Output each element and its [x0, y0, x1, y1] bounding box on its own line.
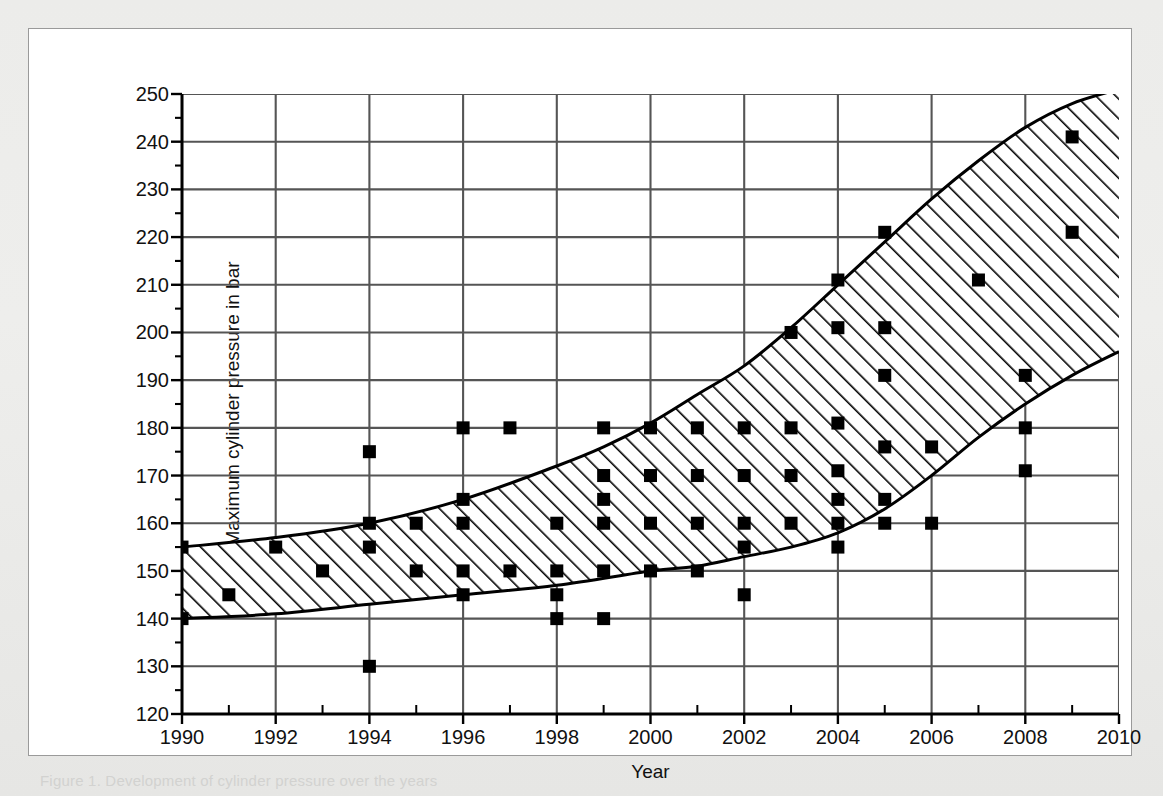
x-tick-label: 2002	[722, 727, 767, 747]
data-point	[597, 493, 610, 506]
data-point	[316, 564, 329, 577]
x-tick-label: 2006	[909, 727, 954, 747]
data-point	[457, 588, 470, 601]
page-root: Maximum cylinder pressure in bar Year 12…	[0, 0, 1163, 796]
data-point	[410, 564, 423, 577]
y-tick-label: 200	[136, 322, 169, 342]
y-tick-label: 190	[136, 370, 169, 390]
data-point	[597, 612, 610, 625]
plot-area: Maximum cylinder pressure in bar Year 12…	[182, 94, 1119, 714]
data-point	[363, 517, 376, 530]
data-point	[597, 421, 610, 434]
data-point	[550, 588, 563, 601]
data-point	[1066, 226, 1079, 239]
data-point	[644, 421, 657, 434]
data-point	[457, 564, 470, 577]
data-point	[691, 564, 704, 577]
y-tick-label: 130	[136, 656, 169, 676]
data-point	[644, 517, 657, 530]
data-point	[691, 517, 704, 530]
y-tick-label: 150	[136, 561, 169, 581]
x-tick-label: 1994	[347, 727, 392, 747]
data-point	[831, 493, 844, 506]
x-tick-label: 1996	[441, 727, 486, 747]
y-tick-label: 140	[136, 609, 169, 629]
data-point	[457, 421, 470, 434]
y-tick-label: 170	[136, 466, 169, 486]
data-point	[738, 541, 751, 554]
data-point	[1019, 421, 1032, 434]
data-point	[878, 440, 891, 453]
data-point	[644, 469, 657, 482]
data-point	[878, 226, 891, 239]
y-tick-label: 210	[136, 275, 169, 295]
data-point	[269, 541, 282, 554]
data-point	[925, 517, 938, 530]
data-point	[785, 326, 798, 339]
data-point	[457, 493, 470, 506]
data-point	[550, 564, 563, 577]
data-point	[831, 274, 844, 287]
data-point	[785, 421, 798, 434]
y-tick-label: 120	[136, 704, 169, 724]
data-point	[550, 517, 563, 530]
data-point	[1019, 464, 1032, 477]
data-point	[878, 369, 891, 382]
x-tick-label: 1990	[160, 727, 205, 747]
figure-card: Maximum cylinder pressure in bar Year 12…	[28, 28, 1132, 756]
data-point	[831, 464, 844, 477]
data-point	[363, 660, 376, 673]
y-tick-label: 220	[136, 227, 169, 247]
data-point	[831, 541, 844, 554]
x-tick-label: 1998	[535, 727, 580, 747]
data-point	[691, 469, 704, 482]
data-point	[831, 321, 844, 334]
data-point	[503, 421, 516, 434]
data-point	[785, 469, 798, 482]
y-tick-label: 230	[136, 179, 169, 199]
data-point	[363, 445, 376, 458]
data-point	[878, 493, 891, 506]
data-point	[597, 564, 610, 577]
y-tick-label: 240	[136, 132, 169, 152]
data-point	[503, 564, 516, 577]
data-point	[363, 541, 376, 554]
x-tick-label: 2010	[1097, 727, 1142, 747]
data-point	[644, 564, 657, 577]
data-point	[738, 588, 751, 601]
data-point	[878, 517, 891, 530]
data-point	[1019, 369, 1032, 382]
data-point	[738, 469, 751, 482]
x-tick-label: 1992	[253, 727, 298, 747]
data-point	[597, 517, 610, 530]
data-point	[222, 588, 235, 601]
data-point	[691, 421, 704, 434]
data-point	[550, 612, 563, 625]
y-tick-label: 160	[136, 513, 169, 533]
data-point	[925, 440, 938, 453]
data-point	[597, 469, 610, 482]
data-point	[738, 517, 751, 530]
data-point	[738, 421, 751, 434]
y-tick-label: 180	[136, 418, 169, 438]
x-tick-label: 2004	[816, 727, 861, 747]
data-point	[831, 517, 844, 530]
y-tick-label: 250	[136, 84, 169, 104]
data-point	[972, 274, 985, 287]
data-point	[1066, 130, 1079, 143]
data-point	[878, 321, 891, 334]
x-tick-label: 2000	[628, 727, 673, 747]
scatter-chart-canvas	[182, 94, 1119, 714]
figure-caption: Figure 1. Development of cylinder pressu…	[40, 772, 1040, 794]
data-point	[785, 517, 798, 530]
data-point	[410, 517, 423, 530]
data-point	[457, 517, 470, 530]
data-point	[831, 417, 844, 430]
x-tick-label: 2008	[1003, 727, 1048, 747]
